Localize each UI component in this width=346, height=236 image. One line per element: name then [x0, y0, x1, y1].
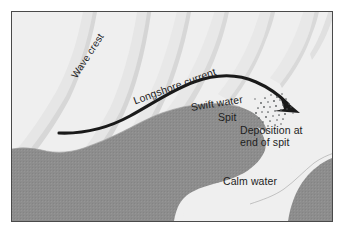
figure-root: Wave crest Longshore current Swift water…: [0, 0, 346, 236]
deposition-line-2: end of spit: [240, 136, 290, 148]
label-spit: Spit: [218, 112, 237, 124]
deposition-line-1: Deposition at: [240, 124, 303, 136]
label-deposition-at-end-of-spit: Deposition atend of spit: [240, 125, 303, 149]
diagram-frame: Wave crest Longshore current Swift water…: [11, 11, 333, 222]
label-calm-water: Calm water: [223, 176, 277, 188]
coastal-diagram-artwork: [12, 12, 332, 221]
